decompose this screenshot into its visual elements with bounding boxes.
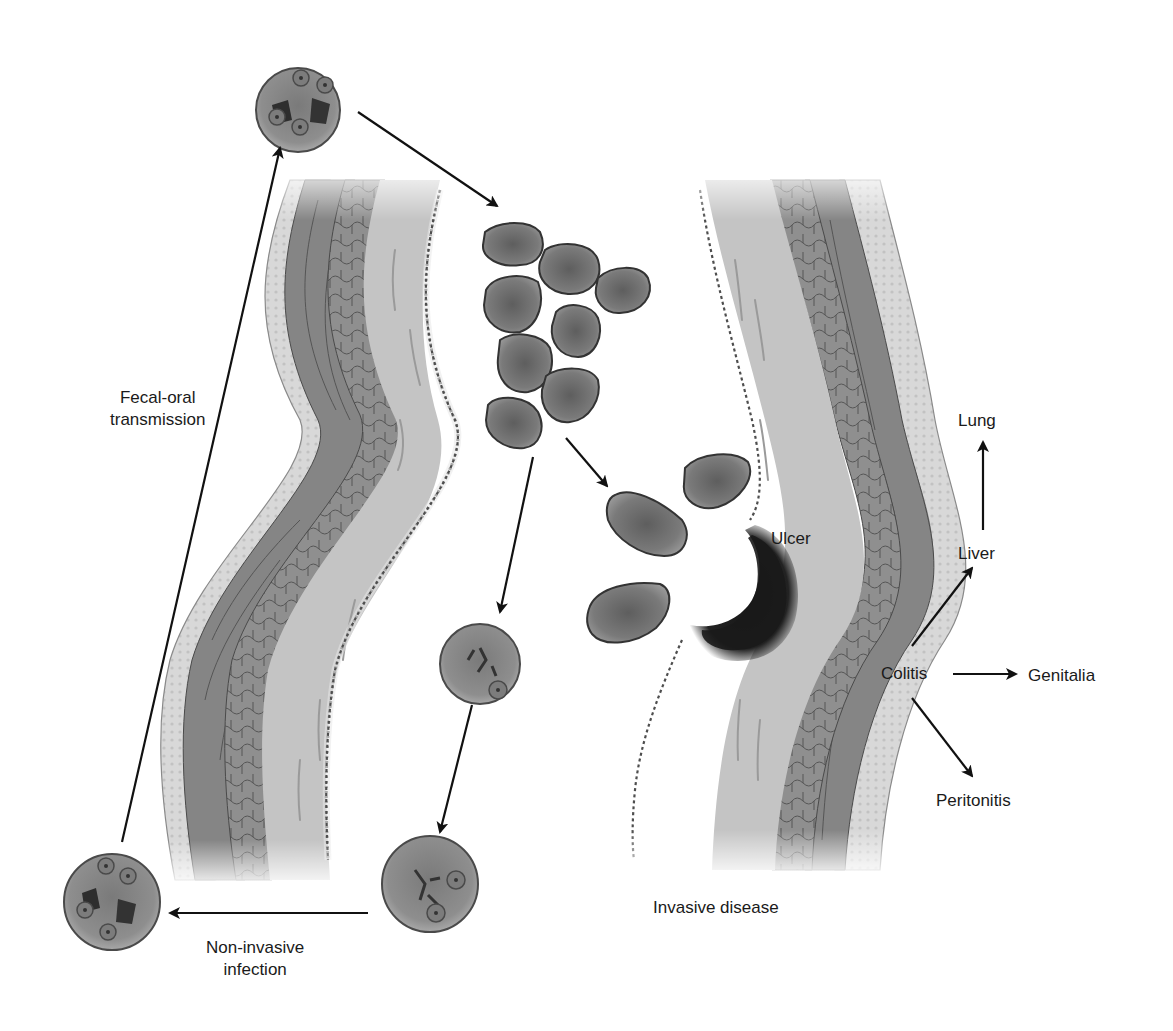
label-line-1: Fecal-oral [110, 387, 205, 409]
arrow-invasion [566, 438, 607, 486]
mature-cyst-ingested [256, 68, 340, 152]
label-lung: Lung [958, 410, 996, 432]
label-fecal-oral-transmission: Fecal-oral transmission [110, 387, 205, 431]
arrow-colitis-peritonitis [912, 698, 972, 776]
label-liver: Liver [958, 543, 995, 565]
label-non-invasive-infection: Non-invasive infection [206, 937, 304, 981]
label-line-2: transmission [110, 409, 205, 431]
label-line-2: infection [206, 959, 304, 981]
arrow-encystation [500, 457, 533, 612]
label-ulcer: Ulcer [771, 528, 811, 550]
mature-cyst-excreted [64, 854, 160, 950]
label-line-1: Non-invasive [206, 937, 304, 959]
precyst-one-nucleus [440, 624, 520, 704]
label-peritonitis: Peritonitis [936, 790, 1011, 812]
label-genitalia: Genitalia [1028, 665, 1095, 687]
immature-cyst-two-nuclei [382, 836, 478, 932]
left-intestinal-wall [150, 160, 470, 890]
arrow-cyst-maturation [440, 705, 472, 832]
amoebiasis-lifecycle-diagram [0, 0, 1173, 1031]
label-invasive-disease: Invasive disease [653, 897, 779, 919]
label-colitis: Colitis [881, 663, 927, 685]
trophozoite-cluster [483, 223, 650, 448]
invading-trophozoites [587, 454, 750, 642]
